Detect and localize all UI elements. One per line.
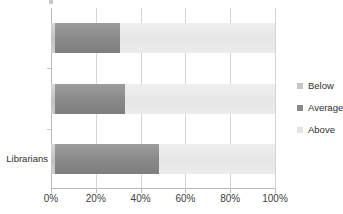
category-label: Librarians [6,153,48,164]
legend-item-above[interactable]: Above [297,124,343,135]
legend-label: Below [308,80,334,91]
bar-segment-above [125,84,275,114]
y-tickmark [47,68,51,69]
legend-swatch-above-icon [297,127,303,133]
x-axis-line [51,188,275,189]
bar-segment-average [55,144,158,174]
bar-row [51,23,275,53]
bar-row [51,84,275,114]
bar-segment-average [55,84,124,114]
legend-item-below[interactable]: Below [297,80,343,91]
x-tick-label: 20% [86,193,106,204]
bar-segment-above [159,144,275,174]
plot-area [51,8,275,189]
legend-label: Above [308,124,335,135]
bar-segment-above [120,23,275,53]
legend-swatch-average-icon [297,105,303,111]
gridline-100 [275,8,276,189]
chart-screenshot: 0%20%40%60%80%100% Librarians BelowAvera… [0,0,343,214]
x-tick-label: 40% [131,193,151,204]
bar-segment-average [55,23,120,53]
legend-swatch-below-icon [297,83,303,89]
chart-legend: BelowAverageAbove [297,80,343,135]
top-crop-artifact [49,0,53,4]
x-tick-label: 60% [175,193,195,204]
legend-label: Average [308,102,343,113]
x-tick-label: 100% [262,193,288,204]
x-tick-label: 80% [220,193,240,204]
bar-row [51,144,275,174]
legend-item-average[interactable]: Average [297,102,343,113]
y-tickmark [47,129,51,130]
x-tick-label: 0% [44,193,58,204]
